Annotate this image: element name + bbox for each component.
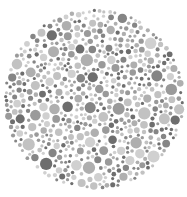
plate-dot <box>56 28 60 32</box>
plate-dot <box>76 45 85 54</box>
plate-dot <box>34 132 39 137</box>
plate-dot <box>162 61 166 65</box>
plate-dot <box>178 76 181 79</box>
plate-dot <box>124 98 132 106</box>
plate-dot <box>81 102 84 105</box>
plate-dot <box>181 101 184 104</box>
plate-dot <box>94 156 101 163</box>
plate-dot <box>5 81 8 84</box>
plate-dot <box>44 121 50 127</box>
plate-dot <box>107 53 110 56</box>
plate-dot <box>127 171 132 176</box>
plate-dot <box>124 136 128 140</box>
plate-dot <box>152 144 156 148</box>
plate-dot <box>125 156 134 165</box>
plate-dot <box>113 103 125 115</box>
plate-dot <box>53 72 61 80</box>
plate-dot <box>59 62 63 66</box>
plate-dot <box>108 10 112 14</box>
plate-dot <box>31 81 40 90</box>
plate-dot <box>107 105 112 110</box>
plate-dot <box>129 29 134 34</box>
plate-dot <box>42 75 46 79</box>
plate-dot <box>122 84 126 88</box>
plate-dot <box>84 131 89 136</box>
plate-dot <box>101 40 104 43</box>
plate-dot <box>138 98 141 101</box>
plate-dot <box>105 45 112 52</box>
plate-dot <box>28 104 31 107</box>
plate-dot <box>101 33 106 38</box>
plate-dot <box>156 122 159 125</box>
plate-dot <box>73 80 76 83</box>
plate-dot <box>124 126 127 129</box>
plate-dot <box>157 137 161 141</box>
plate-dot <box>21 149 24 152</box>
plate-dot <box>74 115 78 119</box>
plate-dot <box>67 62 70 65</box>
plate-dot <box>109 123 114 128</box>
plate-dot <box>164 97 167 100</box>
plate-dot <box>140 94 143 97</box>
plate-dot <box>107 169 111 173</box>
plate-dot <box>84 30 91 37</box>
plate-dot <box>114 119 119 124</box>
plate-dot <box>41 120 44 123</box>
plate-dot <box>138 107 150 119</box>
plate-dot <box>130 69 137 76</box>
plate-dot <box>39 50 43 54</box>
plate-dot <box>123 121 127 125</box>
plate-dot <box>156 47 160 51</box>
plate-dot <box>73 92 76 95</box>
plate-dot <box>25 64 28 67</box>
plate-dot <box>61 96 64 99</box>
plate-dot <box>130 16 133 19</box>
plate-dot <box>75 62 82 69</box>
plate-dot <box>29 48 32 51</box>
plate-dot <box>88 10 91 13</box>
plate-dot <box>26 156 30 160</box>
plate-dot <box>80 29 83 32</box>
plate-dot <box>137 87 141 91</box>
plate-dot <box>70 29 73 32</box>
plate-dot <box>9 92 12 95</box>
plate-dot <box>141 102 144 105</box>
plate-dot <box>95 85 104 94</box>
plate-dot <box>21 104 25 108</box>
plate-dot <box>98 49 101 52</box>
plate-dot <box>149 122 155 128</box>
plate-dot <box>124 26 129 31</box>
plate-dot <box>39 69 43 73</box>
plate-dot <box>26 79 29 82</box>
plate-dot <box>100 70 104 74</box>
plate-dot <box>55 128 63 136</box>
plate-dot <box>99 166 103 170</box>
plate-dot <box>42 152 45 155</box>
plate-dot <box>138 59 143 64</box>
plate-dot <box>68 70 76 78</box>
plate-dot <box>27 61 30 64</box>
plate-dot <box>162 78 165 81</box>
plate-dot <box>92 147 97 152</box>
plate-dot <box>169 106 173 110</box>
plate-dot <box>166 84 177 95</box>
plate-dot <box>40 158 52 170</box>
plate-dot <box>155 83 159 87</box>
plate-dot <box>9 125 13 129</box>
plate-dot <box>130 108 133 111</box>
plate-dot <box>77 133 84 140</box>
plate-dot <box>23 89 26 92</box>
plate-dot <box>147 77 150 80</box>
plate-dot <box>76 70 79 73</box>
plate-dot <box>75 32 81 38</box>
plate-dot <box>130 77 133 80</box>
plate-dot <box>144 69 147 72</box>
plate-dot <box>149 141 152 144</box>
plate-dot <box>38 29 46 37</box>
plate-dot <box>71 147 74 150</box>
plate-dot <box>118 97 123 102</box>
plate-dot <box>55 96 58 99</box>
plate-dot <box>64 85 67 88</box>
plate-dot <box>173 79 176 82</box>
plate-dot <box>92 68 96 72</box>
